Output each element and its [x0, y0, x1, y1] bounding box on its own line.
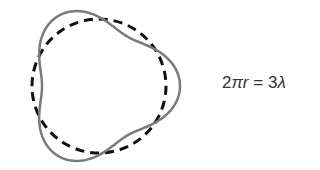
equation-rhs-coeff: 3	[268, 73, 277, 92]
equation-lambda: λ	[277, 73, 285, 92]
standing-wave-curve	[39, 11, 180, 161]
equation-equals: =	[249, 73, 268, 92]
equation-label: 2πr = 3λ	[222, 73, 286, 93]
equation-pi: π	[231, 73, 242, 92]
orbit-circle	[32, 19, 166, 153]
